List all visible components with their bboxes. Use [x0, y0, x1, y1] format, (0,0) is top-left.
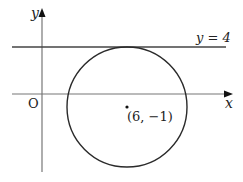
- diagram-canvas: y x O y = 4 (6, −1): [0, 0, 243, 182]
- y-axis-arrow-icon: [39, 8, 46, 17]
- origin-label: O: [28, 96, 39, 111]
- center-label: (6, −1): [127, 109, 173, 124]
- y-axis-label: y: [30, 5, 40, 21]
- line-equation-label: y = 4: [195, 30, 231, 45]
- x-axis-label: x: [225, 95, 233, 111]
